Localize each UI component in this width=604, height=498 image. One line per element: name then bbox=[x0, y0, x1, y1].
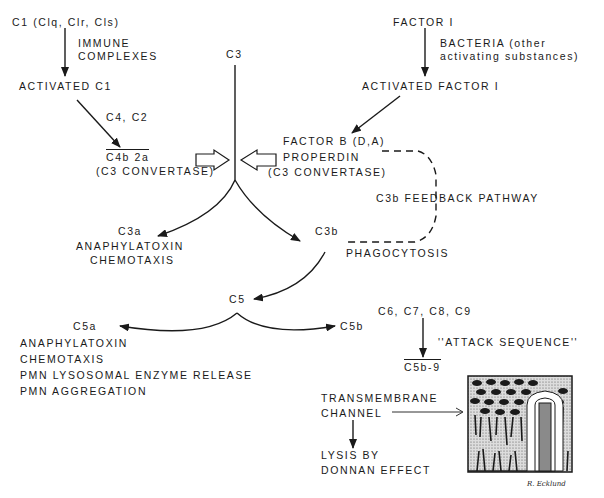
transmembrane-label-1: TRANSMEMBRANE bbox=[321, 392, 438, 405]
arrow-to-factor-b bbox=[352, 96, 400, 133]
feedback-pathway-label: C3b FEEDBACK PATHWAY bbox=[376, 192, 539, 205]
membrane-channel-illustration bbox=[467, 375, 573, 475]
transmembrane-label-2: CHANNEL bbox=[321, 407, 382, 420]
arrow-c3b-c5 bbox=[254, 252, 325, 299]
c5a-effect-3: PMN LYSOSOMAL ENZYME RELEASE bbox=[20, 369, 253, 382]
attack-components-label: C6, C7, C8, C9 bbox=[378, 305, 472, 318]
arrow-c5b bbox=[237, 313, 335, 330]
c5a-effect-4: PMN AGGREGATION bbox=[20, 385, 147, 398]
factor-b-label: FACTOR B (D,A) bbox=[283, 135, 385, 148]
artist-signature: R. Ecklund bbox=[527, 480, 566, 488]
c1-label: C1 (Clq, Clr, Cls) bbox=[12, 16, 120, 29]
arrow-c3b bbox=[235, 180, 300, 241]
c4-c2-label: C4, C2 bbox=[106, 111, 148, 124]
activated-factor-label: ACTIVATED FACTOR I bbox=[362, 80, 499, 93]
c5b9-label: C5b-9 bbox=[404, 359, 441, 374]
factor-label: FACTOR I bbox=[393, 16, 454, 29]
c3a-chemotaxis: CHEMOTAXIS bbox=[90, 254, 175, 267]
c3a-label: C3a bbox=[118, 225, 142, 238]
properdin-label: PROPERDIN bbox=[283, 151, 360, 164]
activated-c1-label: ACTIVATED C1 bbox=[19, 80, 112, 93]
attack-sequence-label: ''ATTACK SEQUENCE'' bbox=[438, 336, 578, 349]
bacteria-label-2: activating substances) bbox=[440, 50, 579, 63]
c3-label: C3 bbox=[226, 48, 243, 61]
arrow-c3a bbox=[158, 180, 235, 236]
phagocytosis-label: PHAGOCYTOSIS bbox=[346, 247, 449, 260]
immune-complexes-label-1: IMMUNE bbox=[78, 37, 130, 50]
c5a-effect-2: CHEMOTAXIS bbox=[20, 353, 105, 366]
c3b-label: C3b bbox=[315, 225, 339, 238]
c5b-label: C5b bbox=[340, 320, 364, 333]
lysis-label-1: LYSIS BY bbox=[321, 449, 380, 462]
c3a-anaphylatoxin: ANAPHYLATOXIN bbox=[76, 240, 184, 253]
c5a-effect-1: ANAPHYLATOXIN bbox=[20, 337, 128, 350]
bacteria-label-1: BACTERIA (other bbox=[440, 37, 546, 50]
c4b2a-label: C4b 2a bbox=[106, 149, 149, 164]
immune-complexes-label-2: COMPLEXES bbox=[78, 50, 158, 63]
classical-convertase-label: (C3 CONVERTASE) bbox=[96, 165, 215, 178]
arrow-c5a bbox=[120, 313, 237, 331]
alternative-convertase-label: (C3 CONVERTASE) bbox=[268, 166, 387, 179]
c5a-label: C5a bbox=[73, 320, 97, 333]
c5-label: C5 bbox=[229, 293, 246, 306]
lysis-label-2: DONNAN EFFECT bbox=[321, 464, 431, 477]
